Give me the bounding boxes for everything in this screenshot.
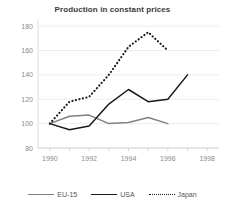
gridlines xyxy=(38,26,219,148)
legend-item-label: Japan xyxy=(178,191,197,198)
series-line-eu-15 xyxy=(50,115,168,124)
series-line-japan xyxy=(50,32,168,123)
data-series-layer xyxy=(50,32,188,130)
y-axis-tick-label: 180 xyxy=(21,23,33,30)
line-dotted-black-icon xyxy=(149,191,175,198)
x-axis-tick-labels: 19901992199419961998 xyxy=(42,155,215,162)
legend-item-eu-15[interactable]: EU-15 xyxy=(28,191,77,198)
legend-item-usa[interactable]: USA xyxy=(91,191,134,198)
plot-area: 80100120140160180 19901992199419961998 xyxy=(0,16,225,164)
legend-item-label: USA xyxy=(120,191,134,198)
series-line-usa xyxy=(50,75,188,130)
x-axis-tick-label: 1996 xyxy=(160,155,176,162)
y-axis-tick-label: 80 xyxy=(25,145,33,152)
legend-item-japan[interactable]: Japan xyxy=(149,191,197,198)
y-axis-tick-label: 140 xyxy=(21,71,33,78)
production-line-chart: Production in constant prices 8010012014… xyxy=(0,0,225,210)
x-axis-tick-label: 1998 xyxy=(199,155,215,162)
y-axis-tick-labels: 80100120140160180 xyxy=(21,23,33,152)
axis-lines xyxy=(38,20,219,151)
chart-legend: EU-15USAJapan xyxy=(0,185,225,203)
x-axis-tick-label: 1992 xyxy=(81,155,97,162)
legend-item-label: EU-15 xyxy=(57,191,77,198)
plot-svg: 80100120140160180 19901992199419961998 xyxy=(0,16,225,164)
line-solid-gray-icon xyxy=(28,191,54,198)
y-axis-tick-label: 160 xyxy=(21,47,33,54)
x-axis-tick-label: 1990 xyxy=(42,155,58,162)
chart-title: Production in constant prices xyxy=(0,5,225,14)
line-solid-black-icon xyxy=(91,191,117,198)
y-axis-tick-label: 120 xyxy=(21,96,33,103)
x-axis-tick-label: 1994 xyxy=(121,155,137,162)
y-axis-tick-label: 100 xyxy=(21,120,33,127)
